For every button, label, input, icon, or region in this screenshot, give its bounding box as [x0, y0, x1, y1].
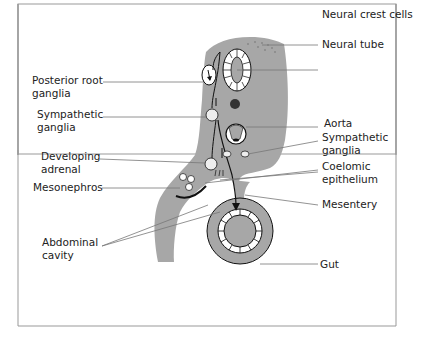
label-sympathetic-ganglia-right-2: ganglia — [322, 144, 361, 157]
label-posterior-root-2: ganglia — [32, 87, 71, 100]
label-neural-tube: Neural tube — [322, 38, 384, 51]
label-sympathetic-ganglia-right-1: Sympathetic — [322, 131, 388, 144]
developing-adrenal — [205, 158, 217, 170]
gut-lumen — [224, 215, 256, 247]
label-posterior-root-1: Posterior root — [32, 74, 103, 87]
label-mesentery: Mesentery — [322, 198, 377, 211]
label-aorta: Aorta — [324, 117, 352, 130]
label-mesonephros: Mesonephros — [33, 181, 103, 194]
label-developing-1: Developing — [41, 150, 100, 163]
label-sympathetic-ganglia-left-2: ganglia — [37, 121, 76, 134]
notochord — [230, 99, 240, 109]
label-sympathetic-ganglia-left-1: Sympathetic — [37, 108, 103, 121]
sympathetic-ganglion-left — [206, 109, 218, 121]
label-coelomic-2: epithelium — [322, 173, 378, 186]
label-neural-crest-cells: Neural crest cells — [322, 8, 413, 21]
label-developing-2: adrenal — [41, 163, 81, 176]
sympathetic-ganglion-right-1 — [223, 151, 231, 157]
sympathetic-ganglion-right-2 — [241, 151, 249, 157]
label-coelomic-1: Coelomic — [322, 160, 370, 173]
label-abdominal-2: cavity — [42, 249, 74, 262]
label-abdominal-1: Abdominal — [42, 236, 98, 249]
label-gut: Gut — [320, 258, 339, 271]
